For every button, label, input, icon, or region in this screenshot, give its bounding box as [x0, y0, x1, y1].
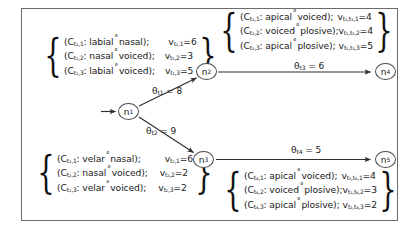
constraint-value: vt₁,1=6	[168, 35, 196, 48]
node-label: n	[199, 155, 205, 165]
node-n2[interactable]: n2	[196, 63, 217, 80]
constraint-rows: (Ct₃,1: apical˚voiced); vt₁,t₃,1=4 (Ct₃,…	[240, 10, 373, 53]
constraint-value: vt₁,t₃,2=4	[339, 24, 373, 37]
constraint-rows: (Ct₂,1: velar˚nasal); vt₂,1=6 (Ct₂,2: na…	[57, 152, 193, 195]
bullet-separator: ˚	[295, 23, 300, 33]
theta-value: = 5	[305, 145, 321, 155]
constraint-box-t3: { (Ct₃,1: apical˚voiced); vt₁,t₃,1=4 (Ct…	[215, 10, 398, 53]
c-subscript: t₁,3	[74, 69, 84, 76]
brace-left-icon: {	[220, 10, 237, 53]
v-subscript: t₁,1	[174, 40, 184, 47]
node-n5[interactable]: n5	[375, 151, 396, 168]
constraint-value: vt₁,t₃,1=4	[337, 10, 371, 23]
node-label: n	[202, 67, 208, 77]
bullet-separator: ˚	[292, 9, 297, 19]
bullet-separator: ˚	[113, 63, 118, 73]
constraint-row: (Ct₃,3: apical˚plosive); vt₁,t₃,3=5	[240, 39, 373, 53]
constraint-rows: (Ct₁,1: labial˚nasal); vt₁,1=6 (Ct₁,2: n…	[64, 35, 197, 78]
brace-left-icon: {	[224, 169, 241, 212]
constraint-condition: (Ct₃,2: voiced˚plosive);	[240, 24, 339, 38]
constraint-box-t4: { (Ct₄,1: apical˚voiced); vt₂,t₄,1=4 (Ct…	[219, 169, 402, 212]
constraint-value: vt₁,t₃,3=5	[339, 39, 373, 52]
constraint-value: vt₂,3=2	[158, 181, 186, 194]
theta-value: = 8	[166, 86, 182, 96]
bullet-separator: ˚	[299, 182, 304, 192]
v-subscript: t₂,1	[170, 157, 180, 164]
c-subscript: t₁,2	[74, 54, 84, 61]
bullet-separator: ˚	[113, 48, 118, 58]
node-label: n	[381, 155, 387, 165]
constraint-box-t2: { (Ct₂,1: velar˚nasal); vt₂,1=6 (Ct₂,2: …	[32, 152, 218, 195]
node-label: n	[124, 107, 130, 117]
bullet-separator: ˚	[105, 151, 110, 161]
constraint-value: vt₂,1=6	[165, 152, 193, 165]
figure-canvas: { (Ct₁,1: labial˚nasal); vt₁,1=6 (Ct₁,2:…	[0, 0, 418, 233]
c-subscript: t₁,1	[74, 40, 84, 47]
bullet-separator: ˚	[292, 38, 297, 48]
constraint-value: vt₂,t₄,1=4	[341, 169, 375, 182]
constraint-value: vt₂,2=2	[160, 166, 188, 179]
constraint-row: (Ct₄,1: apical˚voiced); vt₂,t₄,1=4	[244, 169, 377, 183]
c-subscript: t₂,2	[67, 171, 77, 178]
constraint-value: vt₁,2=3	[165, 49, 193, 62]
constraint-condition: (Ct₂,3: velar˚voiced);	[57, 181, 146, 195]
constraint-row: (Ct₃,1: apical˚voiced); vt₁,t₃,1=4	[240, 10, 373, 24]
constraint-row: (Ct₁,1: labial˚nasal); vt₁,1=6	[64, 35, 197, 49]
c-subscript: t₄,2	[254, 188, 264, 195]
c-subscript: t₃,1	[250, 15, 260, 22]
node-n1[interactable]: n1	[118, 103, 139, 120]
constraint-condition: (Ct₂,1: velar˚nasal);	[57, 152, 141, 166]
c-subscript: t₃,3	[250, 44, 260, 51]
v-subscript: t₂,t₄,3	[348, 203, 364, 210]
bullet-separator: ˚	[105, 180, 110, 190]
constraint-condition: (Ct₁,2: nasal˚voiced);	[64, 49, 155, 63]
v-subscript: t₂,t₄,2	[348, 188, 364, 195]
theta-subscript: t4	[297, 148, 303, 155]
bullet-separator: ˚	[113, 34, 118, 44]
brace-right-icon: }	[375, 10, 392, 53]
constraint-condition: (Ct₄,3: apical˚plosive);	[244, 198, 340, 212]
constraint-row: (Ct₄,3: apical˚plosive); vt₂,t₄,3=2	[244, 198, 377, 212]
constraint-value: vt₂,t₄,2=3	[343, 183, 377, 196]
brace-left-icon: {	[37, 152, 54, 195]
v-subscript: t₁,t₃,1	[343, 15, 359, 22]
constraint-condition: (Ct₄,2: voiced˚plosive);	[244, 183, 343, 197]
v-subscript: t₁,2	[170, 54, 180, 61]
constraint-value: vt₁,3=5	[165, 64, 193, 77]
constraint-row: (Ct₄,2: voiced˚plosive); vt₂,t₄,2=3	[244, 183, 377, 197]
edge-label-theta-t2: θt2 = 9	[146, 126, 176, 136]
v-subscript: t₂,t₄,1	[347, 174, 363, 181]
c-subscript: t₂,3	[67, 186, 77, 193]
c-subscript: t₃,2	[250, 29, 260, 36]
c-subscript: t₄,3	[254, 203, 264, 210]
node-n4[interactable]: n4	[375, 63, 396, 80]
theta-subscript: t3	[300, 64, 306, 71]
constraint-condition: (Ct₃,3: apical˚plosive);	[240, 39, 336, 53]
constraint-row: (Ct₁,3: labial˚voiced); vt₁,3=5	[64, 64, 197, 78]
theta-subscript: t2	[152, 129, 158, 136]
constraint-rows: (Ct₄,1: apical˚voiced); vt₂,t₄,1=4 (Ct₄,…	[244, 169, 377, 212]
constraint-condition: (Ct₂,2: nasal˚voiced);	[57, 166, 148, 180]
edge-label-theta-t4: θt4 = 5	[291, 145, 321, 155]
brace-right-icon: }	[379, 169, 396, 212]
constraint-condition: (Ct₃,1: apical˚voiced);	[240, 10, 333, 24]
bullet-separator: ˚	[296, 197, 301, 207]
constraint-condition: (Ct₁,1: labial˚nasal);	[64, 35, 149, 49]
node-n3[interactable]: n3	[193, 151, 214, 168]
constraint-value: vt₂,t₄,3=2	[343, 198, 377, 211]
theta-value: = 9	[160, 126, 176, 136]
v-subscript: t₂,2	[165, 171, 175, 178]
c-subscript: t₂,1	[67, 157, 77, 164]
constraint-condition: (Ct₁,3: labial˚voiced);	[64, 64, 155, 78]
bullet-separator: ˚	[296, 168, 301, 178]
edge-label-theta-t3: θt3 = 6	[294, 61, 324, 71]
theta-value: = 6	[308, 61, 324, 71]
constraint-row: (Ct₂,1: velar˚nasal); vt₂,1=6	[57, 152, 193, 166]
v-subscript: t₂,3	[164, 186, 174, 193]
constraint-box-t1: { (Ct₁,1: labial˚nasal); vt₁,1=6 (Ct₁,2:…	[39, 35, 222, 78]
v-subscript: t₁,t₃,2	[344, 29, 360, 36]
theta-subscript: t1	[158, 89, 164, 96]
brace-left-icon: {	[44, 35, 61, 78]
constraint-row: (Ct₁,2: nasal˚voiced); vt₁,2=3	[64, 49, 197, 63]
v-subscript: t₁,t₃,3	[344, 44, 360, 51]
